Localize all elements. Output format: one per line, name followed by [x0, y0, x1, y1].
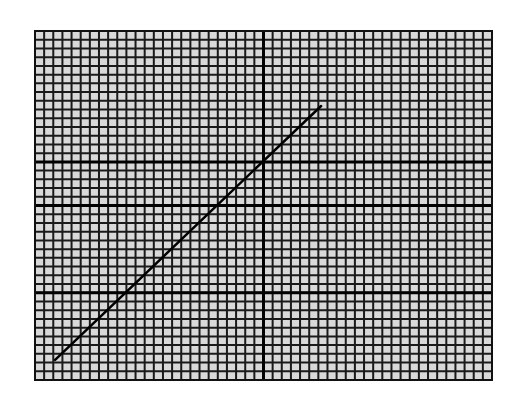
chart	[0, 0, 522, 410]
